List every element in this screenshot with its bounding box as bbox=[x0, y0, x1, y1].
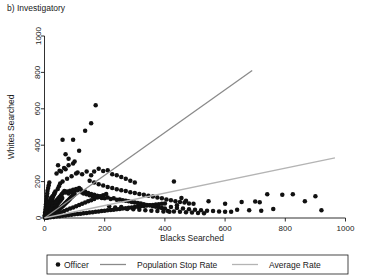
scatter-point bbox=[239, 200, 244, 205]
scatter-point bbox=[87, 178, 92, 183]
scatter-point bbox=[179, 196, 184, 201]
scatter-point bbox=[101, 183, 106, 188]
x-tick-label: 800 bbox=[279, 224, 293, 233]
scatter-point bbox=[133, 191, 138, 196]
scatter-point bbox=[211, 209, 216, 214]
scatter-point bbox=[137, 208, 142, 213]
scatter-point bbox=[72, 159, 77, 164]
scatter-point bbox=[247, 208, 252, 213]
scatter-point bbox=[259, 208, 264, 213]
legend-marker-officer bbox=[56, 262, 61, 267]
scatter-point bbox=[253, 199, 258, 204]
scatter-point bbox=[92, 169, 97, 174]
y-axis-title: Whites Searched bbox=[6, 94, 16, 159]
x-axis-tick-labels: 02004006008001000 bbox=[42, 224, 355, 233]
scatter-point bbox=[184, 210, 189, 215]
scatter-point bbox=[163, 201, 168, 206]
scatter-point bbox=[155, 195, 160, 200]
scatter-point bbox=[63, 152, 68, 157]
legend-label-officer: Officer bbox=[64, 260, 89, 270]
scatter-point bbox=[69, 174, 74, 179]
y-tick-label: 200 bbox=[34, 174, 43, 188]
scatter-point bbox=[96, 167, 101, 172]
scatter-point bbox=[52, 191, 57, 196]
scatter-point bbox=[114, 187, 119, 192]
scatter-point bbox=[128, 190, 133, 195]
scatter-point bbox=[58, 181, 63, 186]
scatter-point bbox=[93, 103, 98, 108]
scatter-point bbox=[257, 200, 262, 205]
y-axis-tick-labels: 02004006008001000 bbox=[34, 27, 43, 221]
legend: Officer Population Stop Rate Average Rat… bbox=[47, 255, 348, 274]
scatter-point bbox=[235, 208, 240, 213]
y-tick-label: 800 bbox=[34, 65, 43, 79]
scatter-point bbox=[172, 209, 177, 214]
scatter-point bbox=[59, 169, 64, 174]
legend-label-population-stop-rate: Population Stop Rate bbox=[137, 260, 218, 270]
x-axis-title: Blacks Searched bbox=[160, 233, 224, 243]
scatter-point bbox=[155, 209, 160, 214]
scatter-point bbox=[161, 209, 166, 214]
scatter-point bbox=[105, 185, 110, 190]
scatter-point bbox=[271, 207, 276, 212]
officer-scatter-points bbox=[43, 103, 324, 220]
scatter-point bbox=[56, 163, 61, 168]
x-tick-label: 1000 bbox=[337, 224, 355, 233]
scatter-point bbox=[133, 180, 138, 185]
scatter-point bbox=[319, 208, 324, 213]
scatter-point bbox=[143, 208, 148, 213]
scatter-point bbox=[110, 172, 115, 177]
scatter-point bbox=[265, 192, 270, 197]
scatter-point bbox=[124, 177, 128, 182]
scatter-point bbox=[173, 199, 178, 204]
scatter-point bbox=[206, 199, 211, 204]
scatter-point bbox=[47, 180, 52, 185]
scatter-point bbox=[169, 205, 174, 210]
scatter-point bbox=[167, 210, 172, 215]
y-tick-label: 0 bbox=[34, 215, 43, 220]
scatter-point bbox=[175, 203, 180, 208]
scatter-point bbox=[63, 167, 68, 172]
scatter-point bbox=[96, 182, 101, 187]
scatter-point bbox=[291, 192, 296, 197]
legend-label-average-rate: Average Rate bbox=[269, 260, 321, 270]
scatter-point bbox=[119, 188, 124, 193]
scatter-point bbox=[172, 179, 177, 184]
scatter-point bbox=[77, 148, 82, 153]
x-tick-label: 600 bbox=[218, 224, 232, 233]
scatter-point bbox=[190, 210, 195, 215]
scatter-point bbox=[119, 175, 124, 180]
scatter-point bbox=[202, 211, 207, 216]
y-tick-label: 1000 bbox=[34, 27, 43, 45]
scatter-point bbox=[75, 170, 80, 175]
scatter-point bbox=[80, 172, 85, 177]
scatter-point bbox=[54, 171, 59, 176]
scatter-point bbox=[280, 192, 285, 197]
scatter-point bbox=[313, 194, 318, 199]
scatter-point bbox=[89, 121, 94, 126]
scatter-point bbox=[83, 128, 88, 133]
x-axis-ticks bbox=[45, 218, 346, 222]
scatter-point bbox=[66, 157, 71, 162]
scatter-point bbox=[223, 202, 228, 207]
scatter-point bbox=[184, 198, 189, 203]
scatter-point bbox=[169, 198, 174, 203]
scatter-point bbox=[125, 207, 129, 212]
x-tick-label: 400 bbox=[158, 224, 172, 233]
scatter-point bbox=[66, 163, 71, 168]
scatter-point bbox=[124, 189, 128, 194]
scatter-point bbox=[110, 186, 115, 191]
x-tick-label: 200 bbox=[98, 224, 112, 233]
scatter-point bbox=[101, 169, 106, 174]
scatter-point bbox=[160, 196, 165, 201]
scatter-plot: 02004006008001000 02004006008001000 Blac… bbox=[0, 0, 365, 280]
scatter-point bbox=[164, 197, 169, 202]
scatter-point bbox=[89, 173, 94, 178]
scatter-point bbox=[113, 205, 118, 210]
scatter-point bbox=[217, 209, 222, 214]
scatter-point bbox=[114, 173, 119, 178]
scatter-point bbox=[137, 192, 142, 197]
y-axis-ticks bbox=[41, 36, 45, 218]
scatter-point bbox=[196, 211, 201, 216]
x-tick-label: 0 bbox=[42, 224, 47, 233]
